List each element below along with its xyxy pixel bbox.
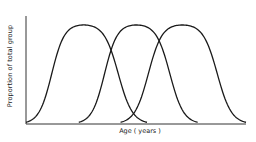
curve-1 bbox=[26, 25, 147, 122]
x-axis-label: Age ( years ) bbox=[100, 127, 180, 135]
chart-plot bbox=[0, 0, 256, 142]
curve-3 bbox=[121, 25, 246, 122]
y-axis-label: Proportion of total group bbox=[6, 18, 14, 114]
curves-group bbox=[26, 25, 246, 122]
curve-2 bbox=[79, 25, 198, 122]
